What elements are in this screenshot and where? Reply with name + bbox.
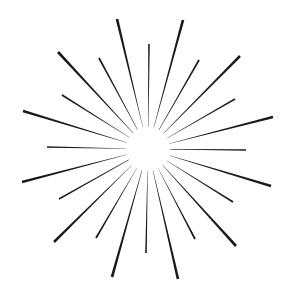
background xyxy=(0,0,293,302)
starburst-graphic xyxy=(0,0,293,302)
